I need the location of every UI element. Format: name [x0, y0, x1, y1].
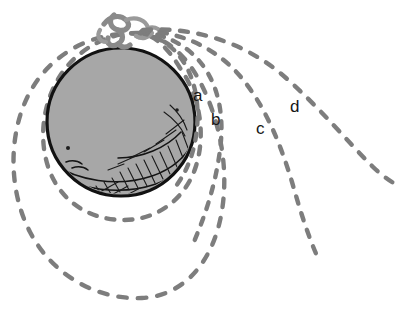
newtons-cannonball-figure: a b c d — [0, 0, 399, 315]
earth-group — [47, 48, 196, 205]
trajectory-label-d: d — [290, 98, 299, 115]
trajectory-label-b: b — [211, 111, 220, 128]
trajectory-label-c: c — [256, 120, 265, 137]
trajectory-label-a: a — [193, 87, 202, 104]
diagram-canvas — [0, 0, 399, 315]
